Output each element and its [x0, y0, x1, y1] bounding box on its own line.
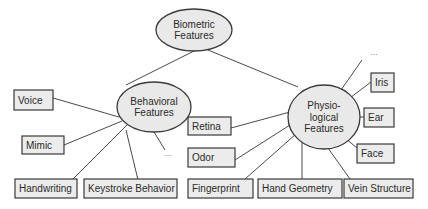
behavioral-label-line-1: Features — [134, 107, 173, 118]
handwriting-label: Handwriting — [19, 183, 72, 194]
edge-behavioral-to-mimic — [64, 121, 122, 145]
biometric-label-line-1: Features — [174, 30, 213, 41]
edge-biometric-to-physiological — [208, 50, 298, 87]
hand-geometry-label: Hand Geometry — [262, 183, 333, 194]
vein-structure-label: Vein Structure — [348, 183, 411, 194]
keystroke-label: Keystroke Behavior — [88, 183, 175, 194]
physiological-more-ellipsis: ... — [370, 47, 378, 57]
mimic-label: Mimic — [26, 140, 52, 151]
node-face: Face — [357, 144, 394, 163]
edge-physiological-to-retina — [231, 112, 290, 128]
node-keystroke: Keystroke Behavior — [84, 179, 177, 198]
node-iris: Iris — [371, 73, 394, 92]
physiological-label-line-2: Features — [304, 123, 343, 134]
edge-biometric-to-behavioral — [126, 51, 194, 85]
node-vein-structure: Vein Structure — [344, 179, 413, 198]
node-retina: Retina — [188, 117, 231, 135]
biometric-label-line-0: Biometric — [173, 19, 215, 30]
physiological-label-line-0: Physio- — [307, 100, 340, 111]
voice-label: Voice — [18, 95, 43, 106]
edge-behavioral-to-handwriting — [73, 124, 128, 179]
node-mimic: Mimic — [22, 136, 64, 154]
edge-behavioral-to-keystroke — [126, 130, 138, 180]
edge-physiological-to-more — [341, 60, 362, 90]
edge-physiological-to-fingerprint — [245, 134, 296, 179]
retina-label: Retina — [192, 121, 221, 132]
node-handwriting: Handwriting — [15, 179, 77, 198]
odor-label: Odor — [192, 152, 215, 163]
edge-physiological-to-odor — [235, 125, 290, 160]
node-ear: Ear — [364, 108, 394, 127]
node-behavioral: BehavioralFeatures — [117, 82, 191, 132]
node-odor: Odor — [188, 148, 235, 167]
iris-label: Iris — [375, 77, 388, 88]
behavioral-more-ellipsis: ... — [164, 148, 172, 158]
node-fingerprint: Fingerprint — [188, 179, 253, 198]
node-physiological: Physio-logicalFeatures — [288, 85, 360, 149]
ear-label: Ear — [368, 112, 384, 123]
node-hand-geometry: Hand Geometry — [258, 179, 342, 198]
edge-behavioral-to-voice — [53, 98, 119, 117]
physiological-label-line-1: logical — [310, 112, 338, 123]
fingerprint-label: Fingerprint — [192, 183, 240, 194]
node-biometric: BiometricFeatures — [156, 9, 232, 51]
biometric-features-diagram: BiometricFeaturesBehavioralFeaturesVoice… — [0, 0, 428, 209]
behavioral-label-line-0: Behavioral — [130, 96, 177, 107]
face-label: Face — [361, 148, 384, 159]
node-voice: Voice — [14, 90, 53, 110]
